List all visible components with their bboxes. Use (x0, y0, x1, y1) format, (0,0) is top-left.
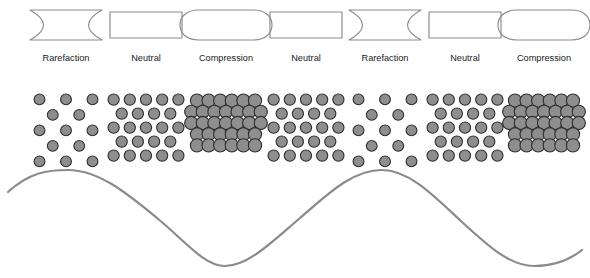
particle (157, 94, 168, 105)
particle (124, 94, 135, 105)
zone-label-rarefaction-2: Rarefaction (362, 53, 409, 63)
zone-label-rarefaction-1: Rarefaction (43, 53, 90, 63)
zone-label-neutral-2: Neutral (291, 53, 321, 63)
particle (406, 94, 417, 105)
particle (87, 94, 98, 105)
particle (140, 94, 151, 105)
particle (61, 156, 72, 167)
particle (34, 156, 45, 167)
particle (173, 122, 184, 133)
particle-field (34, 94, 585, 167)
particle (292, 108, 303, 119)
zone-shape-neutral-1 (110, 12, 182, 38)
particle (484, 108, 495, 119)
particle (459, 94, 470, 105)
hourglass-outline (30, 10, 102, 40)
particle-block-rarefaction-4 (353, 94, 417, 167)
particle (333, 150, 344, 161)
hourglass-outline (349, 10, 421, 40)
particle (140, 122, 151, 133)
particle-block-neutral-3 (268, 94, 344, 161)
particle (132, 108, 143, 119)
particle (165, 136, 176, 147)
particle-block-rarefaction-0 (34, 94, 98, 167)
particle (284, 122, 295, 133)
particle (124, 122, 135, 133)
sound-wave-diagram: Rarefaction Neutral Compression Neutral … (0, 0, 590, 278)
zone-label-row: Rarefaction Neutral Compression Neutral … (43, 53, 572, 63)
particle (380, 125, 391, 136)
particle (61, 125, 72, 136)
particle-block-neutral-5 (427, 94, 503, 161)
particle (435, 108, 446, 119)
particle (325, 108, 336, 119)
particle (333, 94, 344, 105)
particle (317, 122, 328, 133)
zone-shape-row (30, 10, 590, 40)
zone-label-compression-1: Compression (199, 53, 253, 63)
particle (87, 125, 98, 136)
particle (427, 122, 438, 133)
particle (74, 110, 85, 121)
particle (366, 141, 377, 152)
zone-label-compression-2: Compression (517, 53, 571, 63)
particle (284, 94, 295, 105)
particle (317, 94, 328, 105)
particle (173, 150, 184, 161)
particle (300, 94, 311, 105)
particle (108, 122, 119, 133)
particle (380, 94, 391, 105)
zone-shape-neutral-3 (429, 12, 501, 38)
particle (393, 110, 404, 121)
particle (443, 150, 454, 161)
particle (309, 136, 320, 147)
zone-shape-compression-2 (498, 10, 590, 40)
particle (276, 108, 287, 119)
particle (248, 139, 261, 152)
particle (124, 150, 135, 161)
zone-shape-rarefaction-1 (30, 10, 102, 40)
particle (451, 136, 462, 147)
particle (300, 122, 311, 133)
barrel-outline (180, 10, 272, 40)
particle (353, 125, 364, 136)
wave-group (8, 170, 582, 266)
rectangle-outline (429, 12, 501, 38)
particle (173, 94, 184, 105)
zone-label-neutral-3: Neutral (450, 53, 480, 63)
particle (47, 141, 58, 152)
particle (459, 150, 470, 161)
particle (468, 108, 479, 119)
particle (492, 150, 503, 161)
particle (47, 110, 58, 121)
particle (149, 136, 160, 147)
particle (108, 94, 119, 105)
particle (87, 156, 98, 167)
particle (116, 108, 127, 119)
particle (108, 150, 119, 161)
particle (300, 150, 311, 161)
particle (325, 136, 336, 147)
zone-shape-rarefaction-2 (349, 10, 421, 40)
particle (476, 94, 487, 105)
particle (165, 108, 176, 119)
particle (484, 136, 495, 147)
rectangle-outline (110, 12, 182, 38)
particle (317, 150, 328, 161)
particle (268, 122, 279, 133)
particle-block-compression-2 (185, 94, 268, 152)
particle (132, 136, 143, 147)
particle (427, 150, 438, 161)
particle (566, 139, 579, 152)
particle (468, 136, 479, 147)
particle (406, 125, 417, 136)
particle (427, 94, 438, 105)
particle (443, 122, 454, 133)
particle (157, 150, 168, 161)
particle (34, 125, 45, 136)
particle (406, 156, 417, 167)
particle (380, 156, 391, 167)
particle (149, 108, 160, 119)
rectangle-outline (270, 12, 342, 38)
particle (353, 94, 364, 105)
